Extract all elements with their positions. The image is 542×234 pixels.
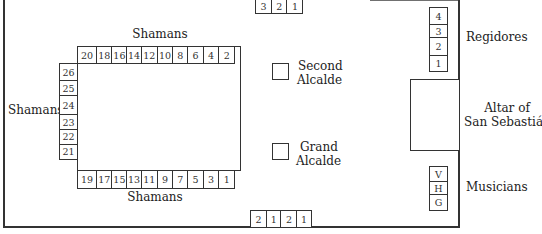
room-wall-top [370, 0, 460, 1]
top-door-seat: 1 [286, 0, 303, 14]
shamans-bottom-label: Shamans [125, 190, 185, 204]
shaman-seat: 23 [59, 114, 78, 130]
shaman-seat: 11 [141, 170, 158, 189]
musician-seat: G [429, 194, 448, 211]
grand-alcalde-label: Grand Alcalde [296, 140, 341, 168]
shaman-seat: 18 [96, 46, 113, 64]
shaman-seat: 12 [141, 46, 158, 64]
shamans-bottom-row: 19 17 15 13 11 9 7 5 3 1 [77, 170, 235, 189]
top-door-seat: 2 [271, 0, 288, 14]
regidor-seat: 2 [429, 37, 448, 56]
altar-box [410, 79, 460, 151]
second-alcalde-label: Second Alcalde [297, 59, 343, 87]
bottom-door-seats: 2 1 2 1 [250, 210, 312, 228]
shaman-seat: 15 [111, 170, 127, 189]
shaman-seat: 6 [187, 46, 204, 64]
room-wall-right-upper [458, 0, 460, 79]
shaman-seat: 21 [59, 144, 78, 160]
musicians-seats: V H G [429, 166, 448, 211]
shamans-top-label: Shamans [130, 27, 190, 41]
shaman-seat: 4 [203, 46, 220, 64]
second-alcalde-label-line1: Second [297, 59, 343, 73]
bottom-door-seat: 1 [296, 210, 312, 228]
shaman-seat: 17 [96, 170, 113, 189]
shaman-seat: 3 [203, 170, 220, 189]
top-door-seats: 3 2 1 [255, 0, 303, 14]
shaman-seat: 20 [77, 46, 97, 64]
musicians-label: Musicians [466, 180, 528, 194]
shaman-seat: 9 [157, 170, 174, 189]
shaman-seat: 13 [126, 170, 142, 189]
shaman-seat: 8 [172, 46, 188, 64]
regidor-seat: 1 [429, 55, 448, 72]
regidor-seat: 4 [429, 7, 448, 25]
altar-label: Altar of San Sebastián [464, 101, 542, 129]
regidores-seats: 4 3 2 1 [429, 7, 448, 72]
shamans-top-row: 20 18 16 14 12 10 8 6 4 2 [77, 46, 235, 64]
bottom-door-seat: 2 [280, 210, 297, 228]
shaman-seat: 25 [59, 80, 78, 97]
shaman-seat: 5 [187, 170, 204, 189]
grand-alcalde-label-line1: Grand [296, 140, 341, 154]
shaman-seat: 14 [126, 46, 142, 64]
shaman-seat: 24 [59, 95, 78, 115]
shaman-seat: 7 [172, 170, 188, 189]
room-wall-left [3, 0, 5, 228]
second-alcalde-seat [272, 63, 289, 80]
shaman-seat: 10 [157, 46, 174, 64]
second-alcalde-label-line2: Alcalde [297, 73, 343, 87]
shamans-left-column: 26 25 24 23 22 21 [59, 63, 78, 160]
shamans-left-label: Shamans [8, 103, 64, 117]
shaman-seat: 26 [59, 63, 78, 81]
shaman-seat: 2 [218, 46, 235, 64]
musician-seat: V [429, 166, 448, 182]
shaman-seat: 1 [218, 170, 235, 189]
top-door-seat: 3 [255, 0, 272, 14]
bottom-door-seat: 2 [250, 210, 267, 228]
regidores-label: Regidores [466, 30, 528, 44]
altar-label-line1: Altar of [464, 101, 542, 115]
shaman-seat: 19 [77, 170, 97, 189]
shaman-seat: 16 [111, 46, 127, 64]
grand-alcalde-seat [272, 143, 289, 160]
room-wall-bottom [3, 226, 460, 228]
shamans-enclosure [77, 46, 241, 171]
shaman-seat: 22 [59, 129, 78, 145]
grand-alcalde-label-line2: Alcalde [296, 154, 341, 168]
bottom-door-seat: 1 [266, 210, 282, 228]
altar-label-line2: San Sebastián [464, 115, 542, 129]
room-wall-right-lower [458, 150, 460, 228]
